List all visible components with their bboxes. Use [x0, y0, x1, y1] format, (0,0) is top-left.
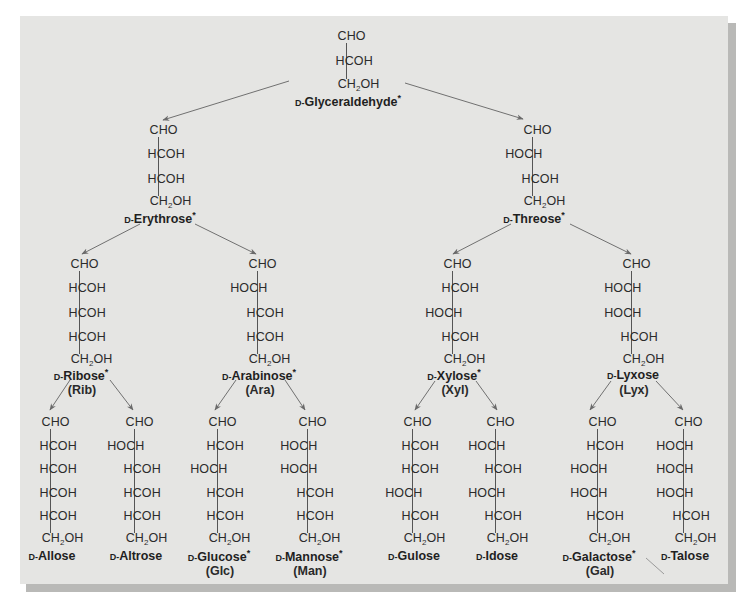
formula-row-hcoh: HCOH [69, 281, 106, 295]
formula-row-cho: CHO [487, 415, 515, 429]
formula-row-hcoh: HCOH [124, 486, 161, 500]
formula-row-ch2oh: CH2OH [589, 531, 631, 550]
sugar-name-lyxose: D-Lyxose [607, 368, 659, 382]
sugar-name-text: Galactose [572, 550, 632, 564]
formula-row-hcoh: HCOH [297, 486, 334, 500]
formula-row-hoch: HOCH [505, 147, 542, 161]
sugar-name-text: Erythrose [134, 212, 192, 226]
formula-row-cho: CHO [126, 415, 154, 429]
formula-row-cho: CHO [71, 257, 99, 271]
formula-row-hoch: HOCH [425, 306, 462, 320]
stereo-prefix: D- [124, 215, 134, 225]
formula-row-hoch: HOCH [230, 281, 267, 295]
sugar-name-altrose: D-Altrose [110, 549, 163, 563]
stereo-prefix: D- [54, 372, 64, 382]
sugar-name-xylose: D-Xylose* [427, 367, 480, 383]
formula-row-hcoh: HCOH [207, 509, 244, 523]
stereo-prefix: D- [188, 553, 198, 563]
formula-row-hcoh: HCOH [522, 172, 559, 186]
sugar-name-glyceraldehyde: D-Glyceraldehyde* [295, 93, 401, 109]
sugar-name-text: Altrose [119, 549, 162, 563]
formula-row-hcoh: HCOH [207, 486, 244, 500]
sugar-abbreviation-ribose: (Rib) [68, 383, 96, 397]
sugar-name-text: Mannose [285, 550, 339, 564]
panel-shadow-bottom [26, 584, 736, 592]
sugar-name-text: Glyceraldehyde [304, 95, 397, 109]
asterisk-mark: * [561, 210, 565, 220]
formula-row-cho: CHO [589, 415, 617, 429]
formula-row-hcoh: HCOH [336, 54, 373, 68]
formula-row-hcoh: HCOH [247, 306, 284, 320]
formula-row-hcoh: HCOH [247, 330, 284, 344]
formula-row-hcoh: HCOH [402, 462, 439, 476]
formula-row-hoch: HOCH [570, 486, 607, 500]
formula-row-cho: CHO [524, 123, 552, 137]
sugar-abbreviation-lyxose: (Lyx) [619, 383, 648, 397]
stereo-prefix: D- [275, 553, 285, 563]
formula-row-hoch: HOCH [468, 486, 505, 500]
formula-row-hoch: HOCH [385, 486, 422, 500]
asterisk-mark: * [293, 367, 297, 377]
formula-row-cho: CHO [249, 257, 277, 271]
formula-row-hcoh: HCOH [124, 462, 161, 476]
panel-shadow-right [728, 23, 736, 592]
sugar-name-text: Threose [513, 212, 562, 226]
formula-row-hoch: HOCH [280, 462, 317, 476]
sugar-name-idose: D-Idose [476, 549, 518, 563]
sugar-name-allose: D-Allose [28, 549, 75, 563]
sugar-name-text: Lyxose [616, 368, 659, 382]
formula-row-ch2oh: CH2OH [126, 531, 168, 550]
formula-row-hoch: HOCH [280, 439, 317, 453]
asterisk-mark: * [247, 548, 251, 558]
sugar-name-erythrose: D-Erythrose* [124, 210, 195, 226]
sugar-name-text: Idose [485, 549, 518, 563]
formula-row-hcoh: HCOH [148, 147, 185, 161]
formula-row-hcoh: HCOH [442, 281, 479, 295]
formula-row-hoch: HOCH [656, 462, 693, 476]
sugar-name-glucose: D-Glucose* [188, 548, 250, 564]
sugar-name-talose: D-Talose [661, 549, 709, 563]
formula-row-hoch: HOCH [604, 281, 641, 295]
formula-row-hcoh: HCOH [40, 509, 77, 523]
formula-row-cho: CHO [299, 415, 327, 429]
sugar-name-mannose: D-Mannose* [275, 548, 342, 564]
formula-row-hcoh: HCOH [40, 439, 77, 453]
stereo-prefix: D- [295, 98, 305, 108]
sugar-name-text: Talose [670, 549, 709, 563]
formula-row-hcoh: HCOH [587, 509, 624, 523]
sugar-name-text: Gulose [398, 549, 440, 563]
formula-row-hcoh: HCOH [40, 462, 77, 476]
asterisk-mark: * [192, 210, 196, 220]
stereo-prefix: D- [388, 552, 398, 562]
formula-row-hcoh: HCOH [485, 509, 522, 523]
stereo-prefix: D- [563, 553, 573, 563]
asterisk-mark: * [632, 548, 636, 558]
sugar-abbreviation-xylose: (Xyl) [441, 383, 468, 397]
formula-row-cho: CHO [338, 29, 366, 43]
formula-row-cho: CHO [675, 415, 703, 429]
stereo-prefix: D- [28, 552, 38, 562]
formula-row-hoch: HOCH [468, 439, 505, 453]
formula-row-hcoh: HCOH [402, 509, 439, 523]
sugar-name-threose: D-Threose* [503, 210, 565, 226]
formula-row-hcoh: HCOH [40, 486, 77, 500]
sugar-abbreviation-mannose: (Man) [293, 564, 326, 578]
sugar-name-ribose: D-Ribose* [54, 367, 109, 383]
stereo-prefix: D- [476, 552, 486, 562]
formula-row-hoch: HOCH [570, 462, 607, 476]
formula-row-hcoh: HCOH [621, 330, 658, 344]
formula-row-cho: CHO [404, 415, 432, 429]
asterisk-mark: * [398, 93, 402, 103]
formula-row-hoch: HOCH [190, 462, 227, 476]
formula-row-hoch: HOCH [604, 306, 641, 320]
formula-row-hcoh: HCOH [587, 439, 624, 453]
sugar-name-arabinose: D-Arabinose* [222, 367, 296, 383]
formula-row-hcoh: HCOH [207, 439, 244, 453]
formula-row-ch2oh: CH2OH [404, 531, 446, 550]
stereo-prefix: D- [222, 372, 232, 382]
formula-row-hcoh: HCOH [297, 509, 334, 523]
formula-row-cho: CHO [150, 123, 178, 137]
formula-row-cho: CHO [444, 257, 472, 271]
carbon-backbone-bond [158, 137, 159, 196]
formula-row-hcoh: HCOH [485, 462, 522, 476]
